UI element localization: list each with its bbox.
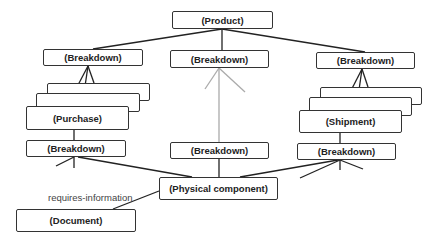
node-breakdown-right: (Breakdown) xyxy=(316,52,415,69)
gray-edges xyxy=(205,68,245,142)
edge-product-breakdown-left xyxy=(93,29,222,49)
node-shipment: (Shipment) xyxy=(299,110,402,133)
node-breakdown-middle: (Breakdown) xyxy=(170,50,269,68)
node-breakdown-left: (Breakdown) xyxy=(43,49,143,66)
node-document: (Document) xyxy=(16,209,136,232)
edge-product-breakdown-right xyxy=(222,29,365,52)
node-product: (Product) xyxy=(172,11,273,29)
node-breakdown-middle-lower: (Breakdown) xyxy=(170,142,269,159)
node-purchase: (Purchase) xyxy=(26,106,129,130)
node-breakdown-left-lower: (Breakdown) xyxy=(26,140,126,157)
node-physical-component: (Physical component) xyxy=(159,177,278,200)
node-breakdown-right-lower: (Breakdown) xyxy=(297,143,396,160)
edge-label-requires-information: requires-information xyxy=(48,192,132,203)
